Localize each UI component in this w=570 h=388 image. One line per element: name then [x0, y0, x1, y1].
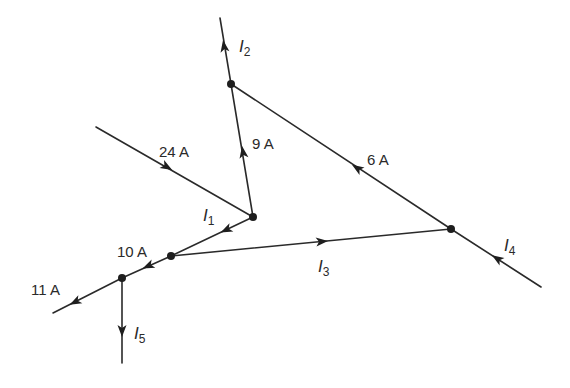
label-11a: 11 A [31, 282, 60, 297]
label-i1-sub: 1 [208, 214, 215, 228]
label-10a: 10 A [117, 244, 147, 259]
label-i2-sub: 2 [244, 45, 251, 59]
arrow-10a-icon [141, 259, 156, 272]
node-mid [249, 213, 257, 221]
arrow-i4-icon [490, 251, 505, 265]
label-i3: I3 [318, 258, 329, 278]
wire-24a [96, 127, 253, 217]
node-right [447, 225, 455, 233]
node-bottom-left [118, 274, 126, 282]
label-i5: I5 [134, 325, 145, 345]
arrow-11a-icon [68, 295, 83, 308]
label-i4-sub: 4 [509, 244, 516, 258]
label-i5-sub: 5 [139, 332, 146, 346]
node-top [227, 80, 235, 88]
label-6a: 6 A [367, 152, 389, 167]
node-left [167, 252, 175, 260]
label-i3-sub: 3 [323, 265, 330, 279]
label-i4: I4 [504, 237, 515, 257]
arrow-i1-icon [219, 223, 234, 236]
arrow-24a-icon [160, 160, 175, 174]
label-24a: 24 A [159, 144, 189, 159]
wire-6a [231, 84, 451, 229]
wire-11a [53, 278, 122, 313]
wire-i3 [171, 229, 451, 256]
label-9a: 9 A [252, 136, 274, 151]
circuit-diagram [0, 0, 570, 388]
label-i2: I2 [239, 38, 250, 58]
label-i1: I1 [203, 207, 214, 227]
